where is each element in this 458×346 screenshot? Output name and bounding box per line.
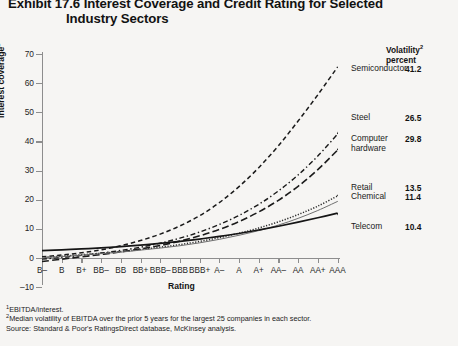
- series-curves: [42, 54, 338, 283]
- footnotes: 1EBITDA/interest. 2Median volatility of …: [6, 305, 446, 333]
- y-tick-label--10: –10: [20, 282, 34, 292]
- y-tick-label-50: 50: [25, 107, 34, 117]
- series-volatility-semiconductor: 41.2: [405, 64, 421, 74]
- series-label-steel: Steel: [351, 113, 370, 123]
- series-volatility-steel: 26.5: [405, 113, 421, 123]
- series-volatility-chemical: 11.4: [405, 192, 421, 202]
- series-leader-telecom: [338, 213, 339, 226]
- volatility-header: Volatility2 percent: [386, 45, 423, 65]
- source-note: Source: Standard & Poor's RatingsDirect …: [6, 324, 446, 333]
- series-label-telecom: Telecom: [351, 222, 382, 232]
- y-tick-label-20: 20: [25, 194, 34, 204]
- series-leader-steel: [338, 117, 339, 134]
- footnote-2: 2Median volatility of EBITDA over the pr…: [6, 314, 446, 323]
- series-label-semiconductor: Semiconductor: [351, 64, 407, 74]
- series-volatility-telecom: 10.4: [405, 222, 421, 232]
- series-line-telecom: [42, 213, 338, 251]
- page-title: Exhibit 17.6 Interest Coverage and Credi…: [8, 0, 428, 26]
- y-tick-label-30: 30: [25, 165, 34, 175]
- footnote-1: 1EBITDA/interest.: [6, 305, 446, 314]
- y-tick-label-0: 0: [29, 253, 34, 263]
- y-tick-label-10: 10: [25, 223, 34, 233]
- series-label-computer-hardware: Computerhardware: [351, 134, 388, 153]
- series-line-semiconductor: [42, 67, 338, 257]
- title-line-1: Exhibit 17.6 Interest Coverage and Credi…: [8, 0, 428, 11]
- y-tick--10: [36, 287, 42, 288]
- y-axis-title: Interest coverage1: [0, 44, 6, 118]
- series-leader-computer-hardware: [338, 138, 339, 150]
- series-volatility-computer-hardware: 29.8: [405, 134, 421, 144]
- series-leader-chemical: [338, 196, 339, 202]
- series-label-chemical: Chemical: [351, 192, 386, 202]
- series-leader-retail: [338, 187, 339, 196]
- exhibit-chart: Exhibit 17.6 Interest Coverage and Credi…: [0, 0, 458, 346]
- y-tick-label-40: 40: [25, 136, 34, 146]
- y-tick-label-60: 60: [25, 78, 34, 88]
- title-line-2: Industry Sectors: [66, 11, 428, 26]
- y-tick-label-70: 70: [25, 49, 34, 59]
- plot-area: [42, 54, 338, 283]
